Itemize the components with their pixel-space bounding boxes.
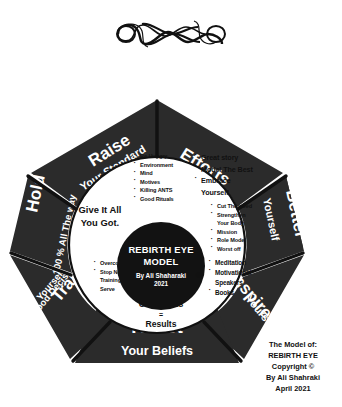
list-item: Model The Best: [196, 164, 253, 176]
list-item: Motivational: [210, 268, 251, 278]
list-item: Your Body: [212, 219, 252, 228]
credit-line-3: Copyright ©: [247, 361, 339, 372]
bullets-inspire: Meditation Motivational Speakers Books: [204, 258, 251, 298]
bullets-raise: Be Hungry Environment Mind Motives Killi…: [129, 152, 174, 203]
list-item: Environment: [135, 161, 174, 170]
center-title-line2: MODEL: [128, 256, 193, 267]
center-author: By Ali Shaharaki: [136, 272, 186, 280]
credit-block: The Model of: REBIRTH EYE Copyright © By…: [247, 339, 339, 395]
credit-line-2: REBIRTH EYE: [247, 350, 339, 361]
list-item: Good Rituals: [135, 195, 174, 204]
diagram-page: Raise Your Standard Efforts To Change Yo…: [0, 0, 342, 407]
list-item: Worst off: [212, 245, 252, 254]
center-year: 2021: [136, 280, 186, 288]
give-it-all-line2: You Got.: [60, 217, 140, 230]
decorative-flourish-icon: [0, 8, 342, 60]
list-item: Speakers: [210, 278, 251, 288]
list-item: Role Model: [212, 236, 252, 245]
bullets-better: Cut The weed Strengthen Your Body Missio…: [206, 202, 252, 253]
list-item: Great story: [196, 152, 253, 164]
equation-equals-sign: =: [118, 311, 204, 318]
list-item: Mission: [212, 228, 252, 237]
list-item: Motives: [135, 178, 174, 187]
credit-line-1: The Model of:: [247, 339, 339, 350]
list-item: Embrace: [196, 175, 253, 187]
give-it-all-line1: Give It All: [60, 204, 140, 217]
copyright-mark-icon: ©: [196, 272, 201, 279]
list-item: Killing ANTS: [135, 186, 174, 195]
sector-reset-subheading: Your Beliefs: [121, 344, 193, 358]
credit-line-5: April 2021: [247, 383, 339, 394]
list-item: Yourself: [196, 187, 253, 199]
credit-line-4: By Ali Shahraki: [247, 372, 339, 383]
list-item: Strengthen: [212, 211, 252, 220]
bullets-efforts: Great story Model The Best Embrace Yours…: [190, 152, 253, 198]
list-item: Meditation: [210, 258, 251, 268]
list-item: Be Hungry: [135, 152, 174, 161]
equation-term-results: Results: [118, 320, 204, 329]
list-item: Mind: [135, 169, 174, 178]
center-disc[interactable]: REBIRTH EYE MODEL By Ali Shaharaki 2021: [117, 222, 205, 310]
center-title-line1: REBIRTH EYE: [128, 244, 193, 255]
list-item: Books: [210, 288, 251, 298]
give-it-all-text: Give It All You Got.: [60, 204, 140, 229]
list-item: Cut The weed: [212, 202, 252, 211]
